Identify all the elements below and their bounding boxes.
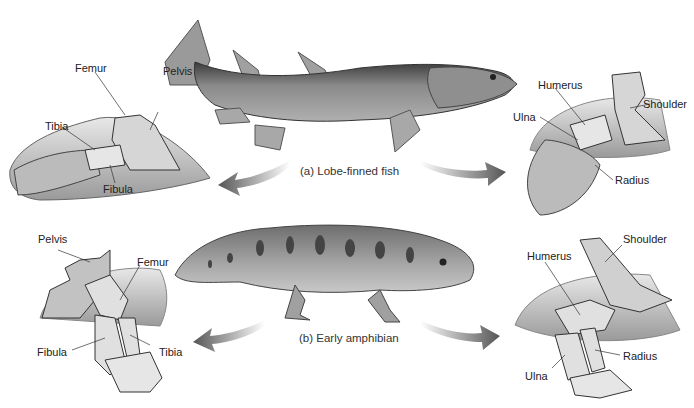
lobe-finned-fish-illustration <box>165 20 517 152</box>
fish-forelimb-illustration <box>528 72 671 215</box>
caption-early-amphibian: (b) Early amphibian <box>299 332 399 344</box>
amphibian-hindlimb-illustration <box>40 250 167 392</box>
label-amphibian-radius: Radius <box>623 350 657 362</box>
early-amphibian-illustration <box>175 225 474 322</box>
label-fish-humerus: Humerus <box>538 79 583 91</box>
label-amphibian-fibula: Fibula <box>37 346 67 358</box>
label-amphibian-shoulder: Shoulder <box>623 233 667 245</box>
label-amphibian-femur: Femur <box>137 256 169 268</box>
label-amphibian-humerus: Humerus <box>527 250 572 262</box>
label-amphibian-tibia: Tibia <box>159 346 182 358</box>
label-amphibian-ulna: Ulna <box>525 370 548 382</box>
caption-lobe-finned-fish: (a) Lobe-finned fish <box>300 165 399 177</box>
label-fish-ulna: Ulna <box>513 111 536 123</box>
label-fish-shoulder: Shoulder <box>643 98 687 110</box>
arrow-to-amphibian-hindlimb <box>193 320 265 352</box>
label-fish-radius: Radius <box>615 174 649 186</box>
label-fish-fibula: Fibula <box>103 183 133 195</box>
label-fish-pelvis: Pelvis <box>163 65 192 77</box>
label-fish-tibia: Tibia <box>45 120 68 132</box>
arrow-to-fish-hindlimb <box>218 160 290 196</box>
label-amphibian-pelvis: Pelvis <box>38 233 67 245</box>
label-fish-femur: Femur <box>75 62 107 74</box>
arrow-to-amphibian-forelimb <box>420 320 500 350</box>
arrow-to-fish-forelimb <box>420 160 506 186</box>
